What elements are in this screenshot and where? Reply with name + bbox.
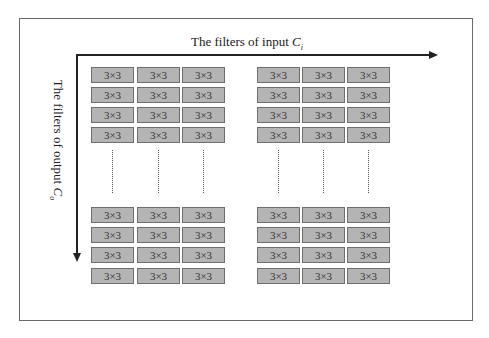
vertical-axis-symbol: Co [51, 187, 66, 200]
vertical-ellipsis-dots [368, 150, 369, 193]
kernel-cell: 3×3 [347, 127, 390, 143]
kernel-cell: 3×3 [302, 268, 345, 284]
kernel-cell: 3×3 [347, 67, 390, 83]
vertical-ellipsis-dots [203, 150, 204, 193]
kernel-cell: 3×3 [257, 247, 300, 263]
kernel-cell: 3×3 [257, 127, 300, 143]
kernel-cell: 3×3 [347, 268, 390, 284]
horizontal-axis-symbol: Ci [292, 34, 303, 49]
kernel-cell: 3×3 [137, 127, 180, 143]
vertical-axis-text: The filters of output [51, 80, 66, 188]
kernel-cell: 3×3 [91, 107, 134, 123]
vertical-arrowhead-icon [73, 253, 81, 262]
kernel-cell: 3×3 [182, 247, 225, 263]
kernel-cell: 3×3 [91, 247, 134, 263]
vertical-ellipsis-dots [158, 150, 159, 193]
kernel-cell: 3×3 [257, 67, 300, 83]
symbol-c-i: C [292, 34, 301, 49]
kernel-cell: 3×3 [91, 67, 134, 83]
kernel-cell: 3×3 [302, 247, 345, 263]
horizontal-axis-label: The filters of input Ci [191, 34, 303, 52]
kernel-cell: 3×3 [257, 207, 300, 223]
kernel-cell: 3×3 [257, 87, 300, 103]
symbol-c-o: C [51, 187, 66, 196]
kernel-cell: 3×3 [302, 107, 345, 123]
figure-frame [19, 18, 473, 321]
vertical-axis-label: The filters of output Co [48, 80, 66, 200]
kernel-cell: 3×3 [257, 268, 300, 284]
kernel-cell: 3×3 [137, 107, 180, 123]
kernel-cell: 3×3 [347, 207, 390, 223]
kernel-cell: 3×3 [257, 107, 300, 123]
kernel-cell: 3×3 [91, 268, 134, 284]
kernel-cell: 3×3 [91, 227, 134, 243]
kernel-cell: 3×3 [347, 107, 390, 123]
vertical-ellipsis-dots [323, 150, 324, 193]
kernel-cell: 3×3 [347, 247, 390, 263]
kernel-cell: 3×3 [182, 87, 225, 103]
kernel-cell: 3×3 [182, 227, 225, 243]
kernel-cell: 3×3 [137, 67, 180, 83]
vertical-ellipsis-dots [112, 150, 113, 193]
kernel-cell: 3×3 [91, 207, 134, 223]
horizontal-arrowhead-icon [429, 51, 438, 59]
kernel-cell: 3×3 [302, 87, 345, 103]
vertical-arrow-line [76, 54, 78, 254]
kernel-cell: 3×3 [182, 107, 225, 123]
kernel-cell: 3×3 [257, 227, 300, 243]
kernel-cell: 3×3 [182, 268, 225, 284]
kernel-cell: 3×3 [91, 87, 134, 103]
kernel-cell: 3×3 [302, 127, 345, 143]
subscript-o: o [48, 196, 57, 200]
kernel-cell: 3×3 [137, 227, 180, 243]
horizontal-axis-text: The filters of input [191, 34, 292, 49]
horizontal-arrow-line [77, 54, 430, 56]
kernel-cell: 3×3 [137, 87, 180, 103]
vertical-ellipsis-dots [278, 150, 279, 193]
kernel-cell: 3×3 [347, 87, 390, 103]
kernel-cell: 3×3 [137, 207, 180, 223]
kernel-cell: 3×3 [182, 207, 225, 223]
kernel-cell: 3×3 [137, 247, 180, 263]
kernel-cell: 3×3 [347, 227, 390, 243]
kernel-cell: 3×3 [182, 127, 225, 143]
kernel-cell: 3×3 [302, 227, 345, 243]
kernel-cell: 3×3 [91, 127, 134, 143]
kernel-cell: 3×3 [137, 268, 180, 284]
subscript-i: i [301, 43, 303, 52]
kernel-cell: 3×3 [182, 67, 225, 83]
kernel-cell: 3×3 [302, 67, 345, 83]
kernel-cell: 3×3 [302, 207, 345, 223]
